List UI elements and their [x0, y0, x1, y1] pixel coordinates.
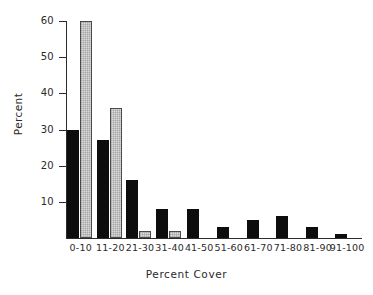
- x-axis-title: Percent Cover: [0, 268, 373, 280]
- bar-group: [332, 21, 362, 238]
- y-axis-tick-label: 50: [30, 52, 54, 62]
- y-axis-tick-label: 40: [30, 88, 54, 98]
- bar-dark: [67, 130, 79, 239]
- bar-dark: [247, 220, 259, 238]
- bar-dark: [97, 140, 109, 238]
- y-axis-tick: [59, 166, 66, 167]
- y-axis-tick-label: 20: [30, 161, 54, 171]
- y-axis-tick-label: 60: [30, 16, 54, 26]
- bar-light: [80, 21, 92, 238]
- bar-dark: [187, 209, 199, 238]
- bar-light: [139, 231, 151, 238]
- bar-group: [155, 21, 185, 238]
- y-axis-tick: [59, 202, 66, 203]
- bar-group: [66, 21, 96, 238]
- y-axis-tick-label: 30: [30, 125, 54, 135]
- y-axis-title: Percent: [12, 79, 24, 149]
- bar-group: [96, 21, 126, 238]
- plot-area: [66, 21, 362, 238]
- bar-group: [214, 21, 244, 238]
- bar-light: [110, 108, 122, 238]
- bar-group: [303, 21, 333, 238]
- bar-dark: [276, 216, 288, 238]
- y-axis-tick-label: 10: [30, 197, 54, 207]
- bar-group: [184, 21, 214, 238]
- bar-chart-figure: Percent Percent Cover 102030405060 0-101…: [0, 0, 373, 295]
- y-axis-tick: [59, 93, 66, 94]
- bar-group: [273, 21, 303, 238]
- bar-dark: [217, 227, 229, 238]
- bar-group: [244, 21, 274, 238]
- x-axis-line: [66, 238, 362, 239]
- bar-dark: [306, 227, 318, 238]
- bar-group: [125, 21, 155, 238]
- y-axis-tick: [59, 57, 66, 58]
- bar-dark: [126, 180, 138, 238]
- y-axis-tick: [59, 130, 66, 131]
- x-axis-tick-label: 91-100: [326, 243, 368, 253]
- bar-dark: [335, 234, 347, 238]
- bar-dark: [156, 209, 168, 238]
- bar-light: [169, 231, 181, 238]
- y-axis-tick: [59, 21, 66, 22]
